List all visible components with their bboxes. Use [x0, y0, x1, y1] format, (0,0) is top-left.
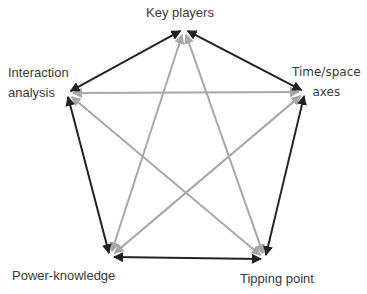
edge-interaction-tipping: [72, 97, 261, 255]
edge-key-time: [188, 31, 302, 90]
inner-star-edges: [72, 35, 301, 255]
label-line: Interaction: [8, 63, 69, 83]
label-line: analysis: [8, 83, 69, 103]
label-line: axes: [292, 82, 361, 102]
edge-interaction-key: [71, 31, 181, 91]
edge-power-interaction: [68, 97, 109, 253]
outer-pentagon-edges: [68, 31, 304, 259]
edge-key-power: [112, 35, 182, 252]
pentagram-diagram: Key players Interaction analysis Time/sp…: [0, 0, 367, 294]
node-label-power-knowledge: Power-knowledge: [12, 266, 115, 286]
node-label-key-players: Key players: [146, 3, 214, 23]
edge-time-interaction: [73, 92, 299, 93]
node-label-interaction-analysis: Interaction analysis: [8, 63, 69, 103]
label-line: Time/space: [292, 62, 361, 82]
edge-tipping-power: [114, 257, 261, 259]
edges-layer: [0, 0, 367, 294]
node-label-tipping-point: Tipping point: [240, 269, 314, 289]
node-label-time-space-axes: Time/space axes: [292, 62, 361, 102]
edge-key-tipping: [186, 35, 263, 254]
